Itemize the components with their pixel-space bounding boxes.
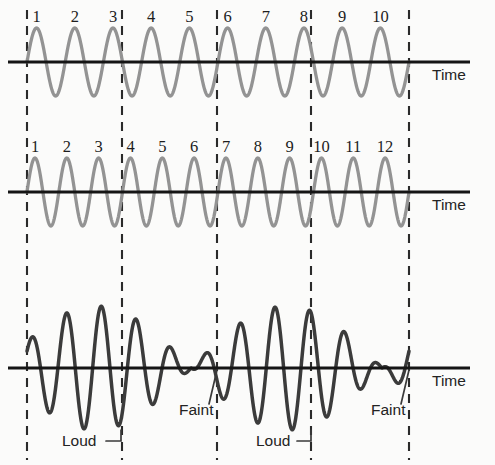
wave-top-cycle-number-9: 9	[338, 7, 346, 26]
wave-top-cycle-number-5: 5	[185, 7, 193, 26]
wave-top-cycle-number-4: 4	[147, 7, 155, 26]
wave-middle-cycle-number-5: 5	[158, 137, 166, 156]
faint-label-left-text: Faint	[179, 401, 214, 418]
middle-wave-panel: Time123456789101112	[8, 137, 470, 226]
faint-label-left: Faint	[179, 370, 217, 418]
loud-label-left: Loud	[62, 430, 121, 449]
beats-waveform-figure: Time12345678910Time123456789101112Time L…	[0, 0, 495, 465]
upper-wave-panel: Time12345678910	[8, 7, 470, 96]
loud-label-right-leader	[297, 430, 311, 441]
wave-middle-cycle-number-4: 4	[126, 137, 134, 156]
loud-label-right-text: Loud	[256, 432, 290, 449]
wave-panels: Time12345678910Time123456789101112Time	[8, 7, 470, 430]
wave-middle-cycle-number-2: 2	[63, 137, 71, 156]
wave-top-cycle-number-7: 7	[262, 7, 270, 26]
loud-label-left-leader	[106, 430, 121, 441]
wave-middle-cycle-number-3: 3	[94, 137, 102, 156]
wave-top-time-label: Time	[432, 66, 466, 83]
wave-middle-cycle-number-7: 7	[222, 137, 230, 156]
wave-bottom-time-label: Time	[432, 372, 466, 389]
wave-top-cycle-number-8: 8	[300, 7, 308, 26]
wave-middle-time-label: Time	[432, 196, 466, 213]
wave-middle-cycle-number-1: 1	[31, 137, 39, 156]
loud-label-left-text: Loud	[62, 432, 96, 449]
wave-top-cycle-number-2: 2	[71, 7, 79, 26]
wave-top-cycle-number-3: 3	[109, 7, 117, 26]
wave-middle-cycle-number-6: 6	[190, 137, 198, 156]
wave-middle-cycle-number-10: 10	[313, 137, 330, 156]
wave-top-cycle-number-10: 10	[372, 7, 389, 26]
wave-middle-cycle-number-8: 8	[254, 137, 262, 156]
wave-middle-cycle-number-9: 9	[285, 137, 293, 156]
figure-canvas: Time12345678910Time123456789101112Time L…	[0, 0, 495, 465]
wave-middle-cycle-number-12: 12	[377, 137, 394, 156]
wave-top-cycle-number-6: 6	[223, 7, 231, 26]
wave-middle-cycle-number-11: 11	[345, 137, 361, 156]
faint-label-right-text: Faint	[371, 401, 406, 418]
loud-label-right: Loud	[256, 430, 311, 449]
wave-top-cycle-number-1: 1	[32, 7, 40, 26]
faint-label-left-leader	[209, 370, 217, 404]
vertical-dashed-guides	[27, 10, 409, 460]
